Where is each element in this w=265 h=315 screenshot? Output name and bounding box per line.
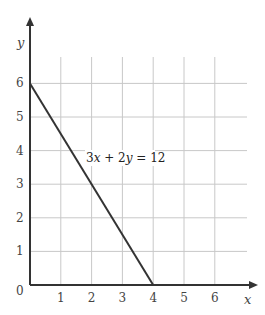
equation-label: 3x + 2y = 12 [86,151,165,165]
y-tick-label: 5 [16,110,24,124]
y-tick-label: 1 [16,244,24,258]
x-tick-label: 2 [88,291,96,305]
x-axis-arrow-icon [249,281,258,289]
x-tick-label: 5 [180,291,188,305]
x-tick-label: 1 [57,291,65,305]
y-tick-label: 3 [16,177,24,191]
grid-lines [30,57,247,285]
x-axis-label: x [244,292,252,307]
x-tick-label: 6 [211,291,219,305]
plot-area: 123456123456 y x 0 3x + 2y = 12 [0,0,265,315]
origin-label: 0 [16,284,24,298]
y-tick-label: 6 [16,76,24,90]
y-axis-label: y [16,35,25,50]
x-tick-label: 3 [119,291,127,305]
y-tick-label: 4 [16,144,24,158]
chart: 123456123456 y x 0 3x + 2y = 12 [0,0,265,315]
y-axis-arrow-icon [26,17,34,26]
y-tick-label: 2 [16,211,24,225]
x-tick-label: 4 [149,291,157,305]
